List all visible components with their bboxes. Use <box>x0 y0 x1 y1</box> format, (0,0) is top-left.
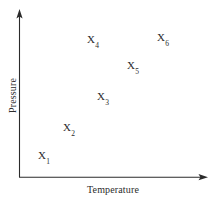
data-point-sub-x2: 2 <box>71 129 75 138</box>
data-point-sub-x3: 3 <box>105 98 109 107</box>
data-point-sub-x4: 4 <box>95 41 99 50</box>
data-point-base-x2: X <box>63 121 71 133</box>
data-point-label-x6: X6 <box>157 32 169 46</box>
data-point-sub-x6: 6 <box>165 39 169 48</box>
data-point-sub-x5: 5 <box>135 67 139 76</box>
x-axis-title: Temperature <box>0 184 217 195</box>
data-point-label-x4: X4 <box>87 34 99 48</box>
data-point-base-x6: X <box>157 31 165 43</box>
data-point-label-x1: X1 <box>38 150 50 164</box>
data-point-base-x1: X <box>38 149 46 161</box>
data-point-base-x4: X <box>87 33 95 45</box>
data-point-label-x2: X2 <box>63 122 75 136</box>
data-point-label-x5: X5 <box>127 60 139 74</box>
data-point-sub-x1: 1 <box>46 157 50 166</box>
data-point-base-x5: X <box>127 59 135 71</box>
y-axis-title: Pressure <box>7 66 18 126</box>
data-point-base-x3: X <box>97 90 105 102</box>
data-point-label-x3: X3 <box>97 91 109 105</box>
scatter-plot-figure: X1 X2 X3 X4 X5 X6 Temperature Pressure <box>0 0 217 200</box>
